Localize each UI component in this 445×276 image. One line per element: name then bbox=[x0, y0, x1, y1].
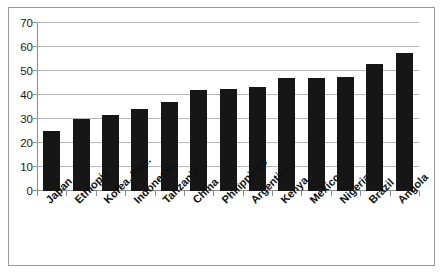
x-tick-mark-4 bbox=[155, 191, 156, 196]
bar-angola bbox=[396, 53, 413, 191]
x-tick-mark-1 bbox=[66, 191, 67, 196]
bar-mexico bbox=[308, 78, 325, 191]
x-tick-mark-2 bbox=[96, 191, 97, 196]
gridline-50 bbox=[37, 70, 419, 71]
bar-brazil bbox=[366, 64, 383, 191]
bar-nigeria bbox=[337, 77, 354, 191]
chart-frame: 010203040506070 JapanEthiopiaKorea, Rep.… bbox=[8, 7, 435, 266]
x-tick-mark-12 bbox=[390, 191, 391, 196]
bar-ethiopia bbox=[73, 119, 90, 191]
x-tick-mark-0 bbox=[37, 191, 38, 196]
x-tick-mark-11 bbox=[360, 191, 361, 196]
plot-area bbox=[37, 23, 419, 191]
x-tick-mark-10 bbox=[331, 191, 332, 196]
y-axis-tick-marks bbox=[9, 23, 39, 191]
x-tick-mark-13 bbox=[419, 191, 420, 196]
x-tick-mark-9 bbox=[301, 191, 302, 196]
x-tick-mark-3 bbox=[125, 191, 126, 196]
x-tick-mark-6 bbox=[213, 191, 214, 196]
bar-philippines bbox=[220, 89, 237, 191]
x-axis-tick-labels: JapanEthiopiaKorea, Rep.IndonesiaTanzani… bbox=[37, 198, 427, 258]
gridline-70 bbox=[37, 22, 419, 23]
x-tick-mark-7 bbox=[243, 191, 244, 196]
x-tick-mark-8 bbox=[272, 191, 273, 196]
gridline-60 bbox=[37, 46, 419, 47]
x-tick-mark-5 bbox=[184, 191, 185, 196]
